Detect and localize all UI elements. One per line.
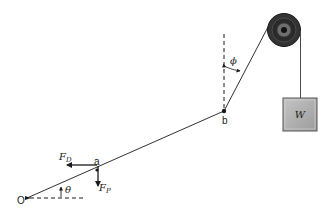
phi-angle-arrow (226, 67, 240, 71)
point-b-label: b (222, 115, 228, 126)
weight-block: W (283, 98, 317, 131)
origin-label: O (17, 195, 25, 206)
pull-force-label: FP (98, 182, 111, 195)
point-b (222, 109, 226, 113)
pulley-force-diagram: ϕ W b a FD FP O θ (0, 0, 334, 214)
pulley-hub (281, 27, 287, 33)
theta-label: θ (65, 184, 71, 195)
weight-label: W (295, 109, 306, 120)
pulley (268, 14, 301, 47)
cable-segment-o-to-b (27, 111, 224, 198)
drag-force-label: FD (58, 151, 72, 164)
phi-label: ϕ (230, 55, 237, 66)
